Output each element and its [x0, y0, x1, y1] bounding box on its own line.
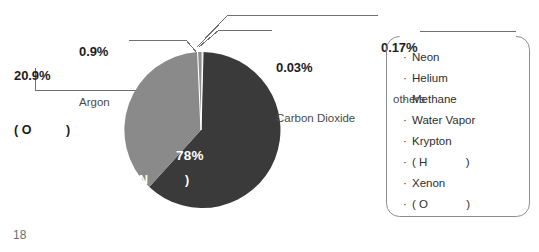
bullet-icon: · [403, 89, 412, 110]
others-item-label: ( O ) [412, 198, 470, 210]
list-item: ·Methane [403, 89, 529, 110]
others-legend-box: ·Neon ·Helium ·Methane ·Water Vapor ·Kry… [386, 36, 530, 217]
pie-label-nitrogen-formula: ( N ) [131, 173, 189, 187]
pie-chart: 78% ( N ) [113, 42, 289, 218]
others-item-label: Methane [412, 93, 457, 105]
callout-carbon-dioxide-name: Carbon Dioxide [276, 112, 355, 124]
callout-argon-name: Argon [79, 96, 110, 108]
callout-oxygen-formula: ( O ) [14, 123, 70, 137]
callout-carbon-dioxide: 0.03% Carbon Dioxide [276, 24, 355, 160]
list-item: ·Water Vapor [403, 110, 529, 131]
others-item-label: Neon [412, 51, 440, 63]
list-item: ·Helium [403, 68, 529, 89]
callout-oxygen: 20.9% ( O ) [14, 32, 70, 173]
bullet-icon: · [403, 152, 412, 173]
callout-argon: 0.9% Argon [79, 8, 110, 144]
chart-page: 78% ( N ) 20.9% ( O ) 0.9% Argon 0.03% C… [0, 0, 539, 252]
others-item-label: Xenon [412, 177, 445, 189]
bullet-icon: · [403, 194, 412, 215]
callout-oxygen-percent: 20.9% [14, 68, 70, 83]
others-item-label: ( H ) [412, 156, 470, 168]
callout-argon-percent: 0.9% [79, 44, 110, 59]
others-item-label: Krypton [412, 135, 452, 147]
bullet-icon: · [403, 110, 412, 131]
list-item: ·( O ) [403, 194, 529, 215]
pie-label-nitrogen-percent: 78% [176, 148, 204, 163]
bullet-icon: · [403, 68, 412, 89]
others-legend-list: ·Neon ·Helium ·Methane ·Water Vapor ·Kry… [403, 47, 529, 215]
others-item-label: Helium [412, 72, 448, 84]
list-item: ·( H ) [403, 152, 529, 173]
list-item: ·Neon [403, 47, 529, 68]
bullet-icon: · [403, 131, 412, 152]
bullet-icon: · [403, 47, 412, 68]
page-number: 18 [13, 228, 26, 242]
callout-carbon-dioxide-percent: 0.03% [276, 60, 355, 75]
list-item: ·Krypton [403, 131, 529, 152]
others-item-label: Water Vapor [412, 114, 475, 126]
pie-chart-svg [113, 42, 289, 218]
bullet-icon: · [403, 173, 412, 194]
list-item: ·Xenon [403, 173, 529, 194]
